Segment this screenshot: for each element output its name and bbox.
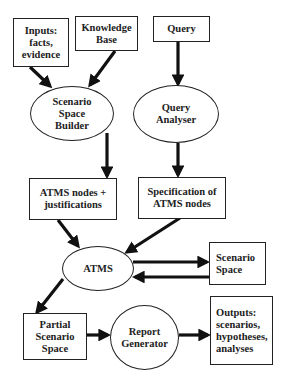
inputs-label: Inputs: facts, evidence <box>22 25 61 61</box>
atms-nodes-label: ATMS nodes + justifications <box>40 187 106 211</box>
atms-label: ATMS <box>83 263 113 275</box>
query-analyser-label: Query Analyser <box>156 102 196 126</box>
inputs-box: Inputs: facts, evidence <box>13 18 69 67</box>
edge-spec-to-atms <box>127 218 180 252</box>
outputs-label: Outputs: scenarios, hypotheses, analyses <box>216 307 268 355</box>
partial-scenario-space-box: Partial Scenario Space <box>23 313 87 360</box>
query-label: Query <box>167 23 196 35</box>
outputs-box: Outputs: scenarios, hypotheses, analyses <box>210 296 273 365</box>
specification-box: Specification of ATMS nodes <box>138 177 226 219</box>
knowledge-base-box: Knowledge Base <box>75 16 138 51</box>
atms-nodes-box: ATMS nodes + justifications <box>29 178 117 220</box>
specification-label: Specification of ATMS nodes <box>147 186 216 210</box>
atms-ellipse: ATMS <box>62 246 134 291</box>
query-analyser-ellipse: Query Analyser <box>133 85 219 143</box>
query-box: Query <box>153 16 210 42</box>
scenario-space-builder-ellipse: Scenario Space Builder <box>30 86 114 141</box>
report-generator-ellipse: Report Generator <box>110 305 179 370</box>
edge-atmsnodes-to-atms <box>58 220 78 246</box>
report-generator-label: Report Generator <box>121 326 168 350</box>
partial-scenario-space-label: Partial Scenario Space <box>35 319 74 355</box>
scenario-space-box: Scenario Space <box>209 242 266 285</box>
scenario-space-label: Scenario Space <box>216 252 255 276</box>
edge-inputs-to-builder <box>30 67 50 86</box>
edge-atms-to-partial <box>37 279 63 312</box>
knowledge-base-label: Knowledge Base <box>81 22 131 46</box>
scenario-space-builder-label: Scenario Space Builder <box>52 96 91 132</box>
edge-kb-to-builder <box>90 51 115 85</box>
